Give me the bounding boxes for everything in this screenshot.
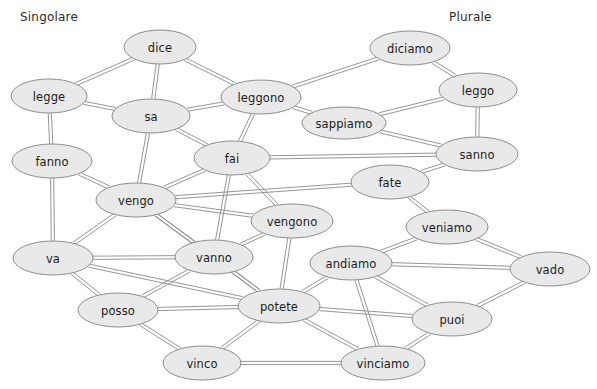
edge-stroke [165, 171, 206, 189]
node-label: sa [144, 110, 157, 124]
edge-stroke [358, 279, 379, 345]
graph-edge [355, 279, 379, 346]
graph-node-sanno[interactable]: sanno [436, 137, 518, 171]
node-label: leggo [462, 84, 494, 98]
edge-stroke [142, 269, 189, 295]
edge-stroke [75, 216, 116, 245]
graph-edge [292, 57, 379, 88]
graph-edge [137, 133, 149, 184]
graph-edge [187, 102, 224, 111]
column-header-singolare: Singolare [20, 10, 78, 24]
graph-node-fai[interactable]: fai [194, 141, 270, 175]
graph-edge [221, 320, 260, 350]
graph-node-fanno[interactable]: fanno [12, 144, 92, 178]
edge-stroke [163, 168, 204, 186]
edge-stroke [293, 60, 379, 88]
graph-edge [139, 323, 180, 351]
edge-stroke [241, 114, 254, 142]
edge-stroke [73, 213, 114, 242]
graph-node-sa[interactable]: sa [112, 99, 190, 133]
edge-stroke [84, 104, 116, 110]
graph-node-legge[interactable]: legge [11, 79, 87, 113]
node-label: vengo [118, 194, 154, 208]
edge-stroke [158, 305, 238, 307]
graph-edge [302, 276, 329, 294]
node-label: veniamo [422, 221, 472, 235]
edge-stroke [184, 61, 234, 86]
graph-edge [174, 204, 253, 218]
edge-stroke [477, 281, 524, 305]
edge-stroke [432, 63, 455, 77]
edge-stroke [381, 237, 416, 250]
graph-node-potete[interactable]: potete [238, 289, 320, 323]
graph-node-andiamo[interactable]: andiamo [310, 246, 392, 280]
edge-stroke [375, 278, 427, 307]
node-label: sanno [459, 148, 494, 162]
edge-stroke [223, 322, 260, 350]
graph-node-leggono[interactable]: leggono [221, 80, 301, 114]
graph-node-sappiamo[interactable]: sappiamo [302, 107, 386, 139]
node-label: vado [536, 263, 565, 277]
edge-stroke [143, 272, 190, 298]
graph-node-diciamo[interactable]: diciamo [370, 31, 450, 65]
node-label: dice [148, 41, 172, 55]
graph-edge [432, 61, 457, 78]
graph-node-vanno[interactable]: vanno [175, 240, 253, 274]
edge-stroke [234, 270, 260, 289]
graph-node-puoi[interactable]: puoi [412, 302, 492, 336]
graph-edge [379, 130, 441, 147]
edge-stroke [188, 105, 225, 111]
node-label: vinciamo [357, 357, 410, 371]
graph-node-veniamo[interactable]: veniamo [406, 210, 488, 244]
edge-stroke [382, 240, 417, 253]
edge-stroke [177, 128, 208, 144]
node-label: potete [260, 300, 298, 314]
graph-node-dice[interactable]: dice [124, 30, 196, 64]
graph-edge [233, 270, 261, 292]
edge-stroke [175, 130, 206, 146]
edge-stroke [270, 153, 436, 156]
edge-stroke [233, 273, 259, 292]
edge-stroke [380, 100, 445, 116]
node-label: diciamo [387, 42, 433, 56]
graph-edge [184, 58, 236, 86]
graph-node-vinciamo[interactable]: vinciamo [341, 346, 425, 380]
graph-node-leggo[interactable]: leggo [439, 73, 517, 107]
graph-node-vinco[interactable]: vinco [163, 346, 241, 380]
node-label: posso [101, 304, 135, 318]
edge-stroke [406, 335, 430, 351]
graph-node-fate[interactable]: fate [351, 165, 429, 199]
edge-stroke [379, 97, 444, 113]
edge-stroke [158, 309, 238, 311]
edge-stroke [376, 275, 428, 304]
graph-edge [241, 361, 341, 364]
graph-edge [375, 275, 429, 307]
graph-edge [152, 64, 160, 99]
graph-edge [421, 163, 445, 174]
graph-node-vengo[interactable]: vengo [96, 183, 176, 217]
edge-stroke [139, 325, 178, 350]
edge-stroke [408, 198, 427, 213]
edge-stroke [405, 332, 429, 348]
edge-stroke [51, 178, 52, 241]
edge-stroke [93, 256, 175, 257]
graph-edge [73, 213, 116, 245]
graph-edge [238, 113, 254, 142]
graph-node-vado[interactable]: vado [510, 252, 590, 286]
edge-stroke [174, 207, 253, 218]
edge-stroke [187, 102, 224, 108]
graph-edge [476, 237, 522, 258]
graph-node-va[interactable]: va [13, 241, 93, 275]
edge-stroke [283, 238, 291, 289]
graph-edge [155, 213, 195, 243]
graph-node-posso[interactable]: posso [78, 293, 158, 327]
edge-stroke [292, 57, 378, 85]
edge-stroke [176, 186, 352, 198]
node-label: andiamo [326, 257, 377, 271]
node-label: vanno [196, 251, 232, 265]
graph-node-vengono[interactable]: vengono [251, 204, 333, 238]
graph-edge [476, 107, 480, 137]
node-label: vengono [267, 215, 318, 229]
graph-edge [163, 168, 205, 189]
graph-edge [71, 272, 100, 296]
